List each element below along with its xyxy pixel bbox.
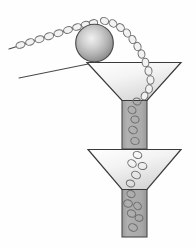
figure-container: Ball and pebbles feeding a two-stage fun… (0, 0, 195, 247)
upper-funnel-stem (122, 99, 147, 149)
pebble-in-stream-8 (145, 66, 153, 75)
pebble-in-stream-9 (147, 76, 155, 85)
funnel-illustration (0, 0, 195, 247)
sphere-body (76, 24, 114, 62)
upper-stem-body (122, 99, 147, 149)
large-sphere (76, 24, 114, 62)
